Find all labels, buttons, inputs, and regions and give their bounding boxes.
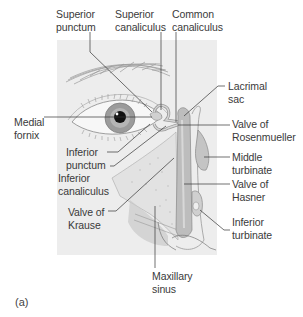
pupil-highlight bbox=[116, 113, 119, 116]
label-superior-canaliculus: Superior canaliculus bbox=[115, 8, 166, 33]
label-inferior-canaliculus: Inferior canaliculus bbox=[58, 172, 109, 197]
label-valve-of-rosenmueller: Valve of Rosenmueller bbox=[232, 118, 296, 143]
figure-caption: (a) bbox=[15, 296, 28, 308]
label-inferior-turbinate: Inferior turbinate bbox=[232, 216, 272, 241]
label-inferior-punctum: Inferior punctum bbox=[66, 146, 106, 171]
label-valve-of-hasner: Valve of Hasner bbox=[232, 178, 268, 203]
label-common-canaliculus: Common canaliculus bbox=[172, 8, 223, 33]
label-middle-turbinate: Middle turbinate bbox=[232, 151, 272, 176]
label-superior-punctum: Superior punctum bbox=[56, 8, 96, 33]
label-valve-of-krause: Valve of Krause bbox=[68, 206, 104, 231]
lacrimal-system-diagram: Superior punctum Superior canaliculus Co… bbox=[0, 0, 303, 317]
label-lacrimal-sac: Lacrimal sac bbox=[228, 80, 267, 105]
label-medial-fornix: Medial fornix bbox=[14, 116, 44, 141]
label-maxillary-sinus: Maxillary sinus bbox=[152, 270, 193, 295]
